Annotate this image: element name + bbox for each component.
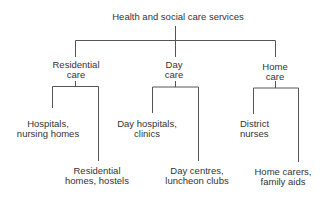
leaf-label-line: luncheon clubs xyxy=(165,176,228,186)
leaf-residential-homes-hostels: Residential homes, hostels xyxy=(65,166,129,186)
node-label-line: care xyxy=(165,70,183,80)
node-home-care: Home care xyxy=(262,62,287,82)
node-label-line: care xyxy=(262,72,287,82)
root-label: Health and social care services xyxy=(112,12,243,22)
leaf-hospitals-nursing-homes: Hospitals, nursing homes xyxy=(17,119,79,139)
node-day-care: Day care xyxy=(165,60,183,80)
leaf-home-carers-family-aids: Home carers, family aids xyxy=(254,167,311,187)
leaf-district-nurses: District nurses xyxy=(240,119,269,139)
leaf-label-line: family aids xyxy=(254,177,311,187)
leaf-label-line: clinics xyxy=(117,129,177,139)
leaf-day-centres-luncheon-clubs: Day centres, luncheon clubs xyxy=(165,166,228,186)
root-node: Health and social care services xyxy=(112,12,243,22)
leaf-label-line: homes, hostels xyxy=(65,176,129,186)
node-label-line: care xyxy=(53,70,100,80)
node-residential-care: Residential care xyxy=(53,60,100,80)
leaf-day-hospitals-clinics: Day hospitals, clinics xyxy=(117,119,177,139)
leaf-label-line: nurses xyxy=(240,129,269,139)
leaf-label-line: nursing homes xyxy=(17,129,79,139)
